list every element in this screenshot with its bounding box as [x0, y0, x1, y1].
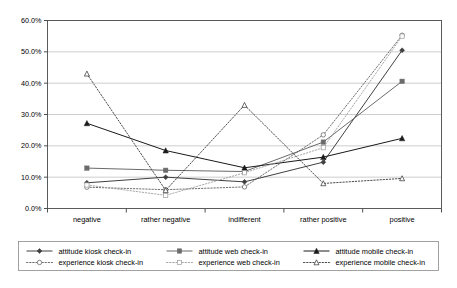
- data-point-marker: [164, 168, 168, 172]
- legend-label: experience mobile check-in: [336, 258, 426, 267]
- data-point-marker: [84, 71, 89, 76]
- legend-item[interactable]: experience kiosk check-in: [27, 258, 144, 267]
- data-point-marker: [242, 102, 247, 107]
- x-axis-category-labels: negativerather negativeindifferentrather…: [73, 215, 415, 224]
- data-point-marker: [400, 176, 405, 181]
- x-axis-category-label: rather negative: [141, 215, 190, 224]
- legend-marker-swatch: [314, 260, 319, 265]
- data-point-marker: [164, 193, 168, 197]
- y-axis-tick-label: 20.0%: [21, 141, 42, 150]
- series-attitude-mobile-check-in: [84, 120, 405, 170]
- series-line: [87, 50, 402, 183]
- legend-marker-swatch: [37, 260, 41, 264]
- y-axis-tick-labels: 0.0%10.0%20.0%30.0%40.0%50.0%60.0%: [21, 16, 47, 213]
- legend-label: attitude web check-in: [199, 247, 268, 256]
- legend-label: experience web check-in: [199, 258, 280, 267]
- legend-item[interactable]: experience web check-in: [167, 258, 280, 267]
- line-chart: 0.0%10.0%20.0%30.0%40.0%50.0%60.0% negat…: [0, 0, 457, 288]
- legend-marker-swatch: [37, 249, 42, 254]
- y-axis-tick-label: 0.0%: [25, 204, 42, 213]
- chart-legend: attitude kiosk check-inattitude web chec…: [19, 242, 439, 271]
- y-axis-tick-label: 60.0%: [21, 16, 42, 25]
- data-point-marker: [163, 175, 168, 180]
- data-point-marker: [242, 171, 246, 175]
- chart-container: 0.0%10.0%20.0%30.0%40.0%50.0%60.0% negat…: [0, 0, 457, 288]
- data-point-marker: [85, 166, 89, 170]
- legend-item[interactable]: attitude mobile check-in: [304, 247, 414, 256]
- legend-label: attitude mobile check-in: [336, 247, 414, 256]
- legend-label: attitude kiosk check-in: [59, 247, 132, 256]
- data-point-marker: [399, 136, 404, 141]
- legend-label: experience kiosk check-in: [59, 258, 144, 267]
- y-axis-tick-label: 10.0%: [21, 173, 42, 182]
- x-axis-category-label: negative: [73, 215, 101, 224]
- legend-marker-swatch: [177, 249, 181, 253]
- data-point-marker: [85, 183, 89, 187]
- x-axis-separators: [48, 209, 442, 213]
- y-axis-tick-label: 40.0%: [21, 79, 42, 88]
- data-point-marker: [84, 120, 89, 125]
- data-point-marker: [400, 34, 404, 38]
- data-series-group: [84, 33, 405, 197]
- data-point-marker: [242, 179, 247, 184]
- data-point-marker: [321, 140, 325, 144]
- data-point-marker: [321, 133, 325, 137]
- legend-item[interactable]: attitude kiosk check-in: [27, 247, 132, 256]
- gridlines: [48, 21, 442, 178]
- series-line: [87, 81, 402, 171]
- data-point-marker: [400, 79, 404, 83]
- legend-marker-swatch: [177, 260, 181, 264]
- legend-item[interactable]: attitude web check-in: [167, 247, 268, 256]
- y-axis-tick-label: 30.0%: [21, 110, 42, 119]
- legend-item[interactable]: experience mobile check-in: [304, 258, 426, 267]
- data-point-marker: [242, 185, 246, 189]
- x-axis-category-label: indifferent: [228, 215, 260, 224]
- y-axis-tick-label: 50.0%: [21, 47, 42, 56]
- x-axis-category-label: positive: [390, 215, 415, 224]
- data-point-marker: [321, 146, 325, 150]
- x-axis-category-label: rather positive: [300, 215, 346, 224]
